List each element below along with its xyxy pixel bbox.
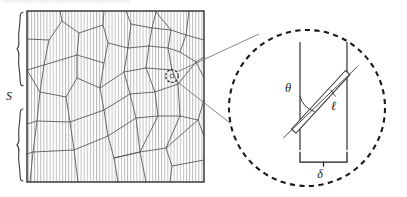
figure-root: S [0,0,407,197]
figure-canvas: S [0,0,407,197]
needle-length-label: ℓ [331,99,336,113]
side-length-brace [17,12,23,181]
cut-off-text-remnant [2,0,130,3]
angle-label: θ [285,81,291,95]
tessellation-square-group [27,11,204,182]
square-hatch-fill [27,11,204,182]
spacing-label: δ [317,167,323,181]
magnified-inset-group: θ ℓ δ [229,30,385,186]
side-length-label: S [6,89,12,103]
